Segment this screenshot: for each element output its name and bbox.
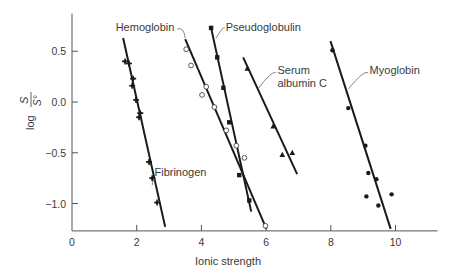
serum-albumin-c-leader-line bbox=[258, 72, 276, 88]
y-axis-label-numerator: S bbox=[18, 96, 30, 104]
fibrinogen-data-point-core bbox=[132, 77, 135, 80]
fit-lines bbox=[123, 28, 391, 229]
pseudoglobulin-data-point bbox=[247, 198, 251, 202]
hemoglobin-data-point bbox=[184, 47, 189, 52]
fibrinogen-label: Fibrinogen bbox=[154, 166, 206, 178]
fibrinogen-data-point-core bbox=[155, 201, 158, 204]
serum-albumin-c-label: albumin C bbox=[277, 77, 327, 89]
hemoglobin-fit-line bbox=[185, 39, 266, 229]
pseudoglobulin-data-point bbox=[227, 120, 231, 124]
myoglobin-data-point bbox=[346, 106, 350, 110]
hemoglobin-label: Hemoglobin bbox=[116, 21, 175, 33]
fibrinogen-data-point-core bbox=[123, 60, 126, 63]
x-tick-label: 10 bbox=[390, 236, 402, 248]
y-axis-label-denominator: S° bbox=[32, 95, 43, 106]
fibrinogen-data-point-core bbox=[147, 160, 150, 163]
pseudoglobulin-data-point bbox=[237, 173, 241, 177]
series-labels: FibrinogenHemoglobinPseudoglobulinSeruma… bbox=[116, 21, 420, 185]
fibrinogen-data-point-core bbox=[137, 116, 140, 119]
hemoglobin-data-point bbox=[242, 155, 247, 160]
fibrinogen-points bbox=[122, 58, 160, 205]
hemoglobin-data-point bbox=[263, 223, 268, 228]
serum-albumin-c-label: Serum bbox=[277, 64, 309, 76]
y-tick-label: −1.0 bbox=[45, 198, 66, 210]
myoglobin-data-point bbox=[389, 192, 393, 196]
myoglobin-data-point bbox=[330, 48, 334, 52]
fibrinogen-data-point-core bbox=[131, 84, 134, 87]
x-tick-label: 8 bbox=[328, 236, 334, 248]
y-tick-label: 0.0 bbox=[51, 96, 66, 108]
myoglobin-data-point bbox=[363, 143, 367, 147]
myoglobin-data-point bbox=[364, 194, 368, 198]
myoglobin-data-point bbox=[376, 203, 380, 207]
myoglobin-data-point bbox=[366, 171, 370, 175]
chart-container: 02468100.50.0−0.5−1.0 FibrinogenHemoglob… bbox=[0, 0, 455, 273]
pseudoglobulin-data-point bbox=[215, 55, 219, 59]
data-markers bbox=[122, 26, 394, 229]
pseudoglobulin-data-point bbox=[221, 86, 225, 90]
pseudoglobulin-leader-line bbox=[216, 28, 225, 38]
x-tick-label: 4 bbox=[198, 236, 204, 248]
fibrinogen-data-point-core bbox=[151, 177, 154, 180]
x-axis-label: Ionic strength bbox=[195, 255, 261, 267]
myoglobin-label: Myoglobin bbox=[370, 64, 420, 76]
hemoglobin-data-point bbox=[212, 105, 217, 110]
axes: 02468100.50.0−0.5−1.0 bbox=[45, 14, 437, 248]
serum-albumin-c-data-point bbox=[290, 150, 296, 155]
serum-albumin-c-data-point bbox=[245, 66, 251, 71]
pseudoglobulin-label: Pseudoglobulin bbox=[226, 21, 301, 33]
myoglobin-leader-line bbox=[349, 72, 368, 88]
y-tick-label: −0.5 bbox=[45, 147, 66, 159]
hemoglobin-data-point bbox=[204, 84, 209, 89]
fibrinogen-data-point-core bbox=[134, 98, 137, 101]
scatter-plot: 02468100.50.0−0.5−1.0 FibrinogenHemoglob… bbox=[0, 0, 455, 273]
hemoglobin-leader-line bbox=[177, 29, 185, 38]
x-tick-label: 0 bbox=[69, 236, 75, 248]
x-tick-label: 2 bbox=[134, 236, 140, 248]
pseudoglobulin-data-point bbox=[209, 26, 213, 30]
serum-albumin-c-data-point bbox=[279, 152, 285, 157]
hemoglobin-data-point bbox=[200, 92, 205, 97]
x-tick-label: 6 bbox=[263, 236, 269, 248]
myoglobin-data-point bbox=[374, 177, 378, 181]
y-axis-label-prefix: log bbox=[24, 115, 36, 130]
y-tick-label: 0.5 bbox=[51, 45, 66, 57]
hemoglobin-data-point bbox=[234, 143, 239, 148]
y-axis-label: log S S° bbox=[18, 92, 43, 130]
hemoglobin-data-point bbox=[189, 63, 194, 68]
fibrinogen-data-point-core bbox=[127, 62, 130, 65]
hemoglobin-data-point bbox=[224, 128, 229, 133]
